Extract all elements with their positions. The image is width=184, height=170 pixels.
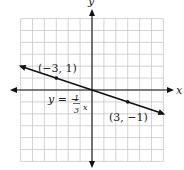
series-arrow-start [19,65,27,71]
data-point [126,100,130,104]
x-axis-arrow-right [167,87,174,93]
line-chart: x y (−3, 1) (3, −1) y = − 1 3 x [0,0,184,170]
axes [10,9,174,168]
data-point [55,76,59,80]
equation-numerator: 1 [74,94,79,103]
equation-denominator: 3 [74,106,79,115]
equation-label: y = − 1 3 x [47,93,88,115]
x-axis-arrow-left [10,87,17,93]
x-axis-label: x [176,84,183,97]
y-axis-label: y [87,0,95,8]
y-axis-arrow-down [89,161,95,168]
y-axis-arrow-up [89,9,95,16]
series-arrow-end [158,109,166,115]
equation-variable: x [83,103,88,112]
point-label-neg3-1: (−3, 1) [38,62,77,75]
point-label-3-neg1: (3, −1) [109,111,148,124]
